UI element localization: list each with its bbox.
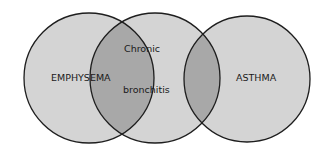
asthma-label: ASTHMA <box>236 72 277 83</box>
chronic-label: Chronic <box>124 43 160 54</box>
venn-svg: EMPHYSEMA Chronic bronchitis ASTHMA <box>0 0 332 153</box>
emphysema-label: EMPHYSEMA <box>51 72 111 83</box>
bronchitis-label: bronchitis <box>123 84 170 95</box>
venn-diagram: EMPHYSEMA Chronic bronchitis ASTHMA <box>0 0 332 153</box>
